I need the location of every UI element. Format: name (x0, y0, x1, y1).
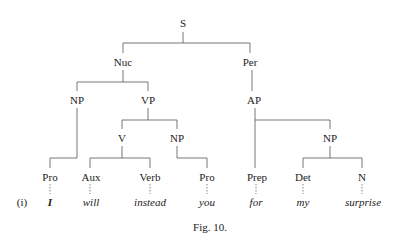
edge-ap-branch (255, 120, 330, 129)
node-nuc: Nuc (114, 56, 132, 68)
sentence-words: (i) I will instead you for my surprise (17, 196, 381, 209)
syntax-tree-diagram: S Nuc Per NP VP AP V NP NP Pro Aux Verb … (0, 0, 395, 245)
edge-np1-pro (50, 108, 77, 168)
node-np: NP (323, 132, 337, 144)
word-for: for (250, 196, 264, 208)
node-n: N (358, 171, 366, 183)
word-you: you (198, 196, 215, 208)
node-np: NP (70, 94, 84, 106)
node-np: NP (170, 132, 184, 144)
word-surprise: surprise (345, 196, 381, 208)
word-my: my (297, 196, 310, 208)
edge-vp-branch (122, 120, 177, 129)
node-per: Per (243, 56, 258, 68)
node-pro: Pro (199, 171, 215, 183)
node-s: S (180, 17, 186, 29)
node-pro: Pro (42, 171, 58, 183)
edge-s-branch (123, 43, 250, 53)
tree-edges (50, 32, 362, 194)
node-det: Det (295, 171, 311, 183)
node-prep: Prep (247, 171, 268, 183)
edge-np2-pro (177, 146, 207, 168)
node-aux: Aux (82, 171, 101, 183)
figure-caption: Fig. 10. (193, 221, 227, 233)
example-label: (i) (17, 196, 28, 209)
node-v: V (118, 132, 126, 144)
node-verb: Verb (140, 171, 161, 183)
word-instead: instead (134, 196, 166, 208)
word-will: will (83, 196, 100, 208)
edge-nuc-branch (77, 82, 148, 91)
word-i: I (47, 196, 53, 208)
node-ap: AP (247, 94, 261, 106)
edge-np3-branch (303, 158, 362, 168)
edge-v-branch (90, 158, 150, 168)
node-vp: VP (141, 94, 155, 106)
